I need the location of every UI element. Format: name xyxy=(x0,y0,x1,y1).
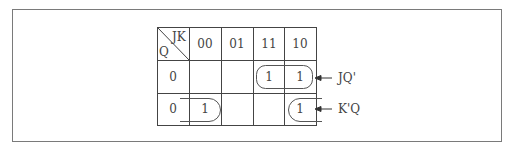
kmap-cell: 1 xyxy=(296,102,304,116)
row-label: 0 xyxy=(169,70,177,84)
column-header: 00 xyxy=(197,37,212,51)
arrow-head-icon xyxy=(315,76,321,81)
kmap-cell: 1 xyxy=(201,102,209,116)
column-header: 10 xyxy=(292,37,307,51)
corner-row-var: Q xyxy=(159,45,169,59)
kmap-cell: 1 xyxy=(296,70,304,84)
row-label: 0 xyxy=(169,102,177,116)
column-header: 11 xyxy=(261,37,276,51)
kmap-cell: 1 xyxy=(265,70,273,84)
arrow-head-icon xyxy=(315,107,321,112)
corner-col-var: JK xyxy=(170,30,187,44)
group-label-kq: K'Q xyxy=(338,102,360,116)
karnaugh-map: JK Q 00 01 11 10 0 0 1 1 1 1 JQ' K'Q xyxy=(0,0,513,152)
group-label-jq-prime: JQ' xyxy=(336,71,356,85)
column-header: 01 xyxy=(229,37,244,51)
